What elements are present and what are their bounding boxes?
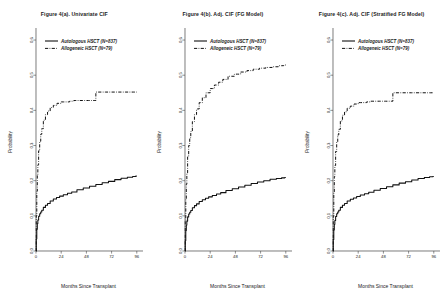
x-tick-label: 48 bbox=[84, 254, 89, 259]
panel-b: Figure 4(b). Adj. CIF (FG Model) 0.00.10… bbox=[149, 0, 298, 303]
y-tick-label: 0.4 bbox=[326, 107, 331, 113]
curve-allogeneic bbox=[185, 65, 286, 251]
panel-b-plot: 0.00.10.20.30.40.50.6024487296Probabilit… bbox=[149, 0, 298, 303]
legend-label: Allogeneic HSCT (N=79) bbox=[60, 46, 113, 51]
legend-label: Autologous HSCT (N=837) bbox=[209, 39, 266, 44]
x-tick-label: 48 bbox=[233, 254, 238, 259]
x-tick-label: 72 bbox=[407, 254, 412, 259]
x-tick-label: 24 bbox=[356, 254, 361, 259]
legend-label: Autologous HSCT (N=837) bbox=[357, 39, 414, 44]
y-axis-label: Probability bbox=[305, 131, 310, 153]
x-axis-label: Months Since Transplant bbox=[210, 283, 265, 289]
x-axis-label: Months Since Transplant bbox=[61, 283, 116, 289]
y-tick-label: 0.1 bbox=[178, 212, 183, 218]
x-tick-label: 24 bbox=[59, 254, 64, 259]
x-tick-label: 0 bbox=[183, 254, 186, 259]
y-tick-label: 0.2 bbox=[29, 177, 34, 183]
curve-autologous bbox=[185, 178, 286, 251]
panel-a-svg: 0.00.10.20.30.40.50.6024487296Probabilit… bbox=[0, 0, 149, 303]
panel-a-plot: 0.00.10.20.30.40.50.6024487296Probabilit… bbox=[0, 0, 149, 303]
panel-c-svg: 0.00.10.20.30.40.50.6024487296Probabilit… bbox=[297, 0, 446, 303]
y-tick-label: 0.6 bbox=[178, 36, 183, 42]
panel-b-svg: 0.00.10.20.30.40.50.6024487296Probabilit… bbox=[149, 0, 298, 303]
x-tick-label: 0 bbox=[35, 254, 38, 259]
y-tick-label: 0.0 bbox=[178, 247, 183, 253]
y-tick-label: 0.2 bbox=[326, 177, 331, 183]
y-tick-label: 0.0 bbox=[29, 247, 34, 253]
x-tick-label: 0 bbox=[332, 254, 335, 259]
legend-label: Allogeneic HSCT (N=79) bbox=[209, 46, 262, 51]
y-axis-label: Probability bbox=[8, 131, 13, 153]
curve-allogeneic bbox=[36, 92, 137, 251]
x-tick-label: 72 bbox=[109, 254, 114, 259]
figure-panel-row: Figure 4(a). Univariate CIF 0.00.10.20.3… bbox=[0, 0, 446, 303]
y-tick-label: 0.2 bbox=[178, 177, 183, 183]
x-tick-label: 96 bbox=[134, 254, 139, 259]
curve-allogeneic bbox=[333, 93, 434, 251]
y-tick-label: 0.3 bbox=[178, 142, 183, 148]
legend-label: Allogeneic HSCT (N=79) bbox=[357, 46, 410, 51]
y-tick-label: 0.3 bbox=[29, 142, 34, 148]
y-tick-label: 0.1 bbox=[326, 212, 331, 218]
y-tick-label: 0.6 bbox=[326, 36, 331, 42]
curve-autologous bbox=[36, 176, 137, 251]
panel-c-plot: 0.00.10.20.30.40.50.6024487296Probabilit… bbox=[297, 0, 446, 303]
x-tick-label: 96 bbox=[283, 254, 288, 259]
panel-c: Figure 4(c). Adj. CIF (Stratified FG Mod… bbox=[297, 0, 446, 303]
y-axis-label: Probability bbox=[157, 131, 162, 153]
x-tick-label: 24 bbox=[208, 254, 213, 259]
curve-autologous bbox=[333, 176, 434, 251]
y-tick-label: 0.0 bbox=[326, 247, 331, 253]
y-tick-label: 0.4 bbox=[178, 107, 183, 113]
x-tick-label: 48 bbox=[381, 254, 386, 259]
y-tick-label: 0.5 bbox=[178, 72, 183, 78]
y-tick-label: 0.5 bbox=[29, 72, 34, 78]
y-tick-label: 0.1 bbox=[29, 212, 34, 218]
y-tick-label: 0.6 bbox=[29, 36, 34, 42]
x-tick-label: 72 bbox=[258, 254, 263, 259]
panel-a: Figure 4(a). Univariate CIF 0.00.10.20.3… bbox=[0, 0, 149, 303]
x-tick-label: 96 bbox=[432, 254, 437, 259]
y-tick-label: 0.4 bbox=[29, 107, 34, 113]
y-tick-label: 0.5 bbox=[326, 72, 331, 78]
x-axis-label: Months Since Transplant bbox=[358, 283, 413, 289]
y-tick-label: 0.3 bbox=[326, 142, 331, 148]
legend-label: Autologous HSCT (N=837) bbox=[60, 39, 117, 44]
